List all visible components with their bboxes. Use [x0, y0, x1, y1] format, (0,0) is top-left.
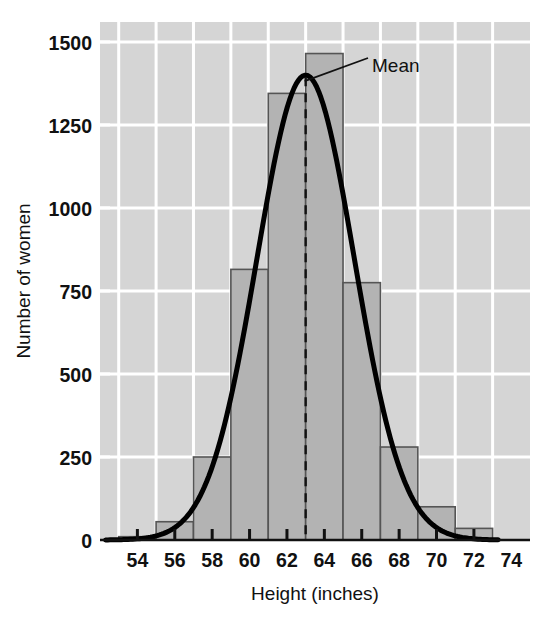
y-tick-label-1500: 1500 [49, 32, 93, 54]
y-tick-label-1000: 1000 [49, 198, 93, 220]
histogram-bar [306, 54, 343, 540]
x-tick-label-72: 72 [463, 549, 485, 571]
y-tick-label-0: 0 [81, 530, 92, 552]
x-tick-label-68: 68 [388, 549, 410, 571]
x-tick-label-60: 60 [239, 549, 261, 571]
x-tick-label-62: 62 [276, 549, 298, 571]
x-axis-title: Height (inches) [251, 583, 379, 604]
x-tick-label-66: 66 [351, 549, 373, 571]
chart-figure: Mean 5456586062646668707274 025050075010… [0, 0, 541, 626]
y-tick-label-250: 250 [59, 447, 92, 469]
x-tick-label-58: 58 [201, 549, 223, 571]
histogram-bar [343, 283, 380, 540]
x-tick-label-56: 56 [164, 549, 186, 571]
histogram-chart: Mean 5456586062646668707274 025050075010… [0, 0, 541, 626]
mean-annotation-label: Mean [372, 55, 420, 76]
x-tick-label-64: 64 [313, 549, 335, 571]
x-tick-label-74: 74 [500, 549, 522, 571]
y-axis-title: Number of women [13, 203, 34, 358]
x-tick-label-70: 70 [426, 549, 448, 571]
y-tick-label-1250: 1250 [49, 115, 93, 137]
x-tick-label-54: 54 [127, 549, 149, 571]
y-tick-label-750: 750 [59, 281, 92, 303]
y-tick-label-500: 500 [59, 364, 92, 386]
